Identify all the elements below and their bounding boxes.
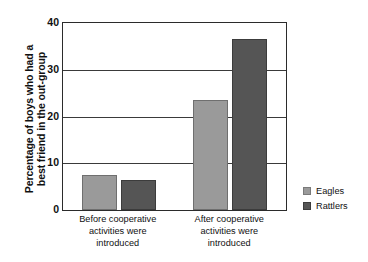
y-axis-tick-label: 40	[36, 16, 59, 28]
legend-label: Rattlers	[316, 201, 348, 211]
x-axis-group-label-line-1: Before cooperative	[58, 213, 178, 225]
y-axis-tick-label: 20	[36, 110, 59, 122]
bar-rattlers-group-2	[232, 39, 267, 210]
y-axis-tick-label: 30	[36, 63, 59, 75]
x-axis-group-label-line-3: introduced	[58, 237, 178, 249]
x-axis-group-label-line-1: After cooperative	[169, 213, 289, 225]
bar-rattlers-group-1	[121, 180, 156, 210]
x-axis-group-label: After cooperativeactivities wereintroduc…	[169, 213, 289, 249]
plot-area	[62, 22, 287, 211]
x-axis-group-label-line-3: introduced	[169, 237, 289, 249]
bar-eagles-group-2	[193, 100, 228, 210]
bars-layer	[63, 23, 286, 210]
y-axis-tick-label: 10	[36, 156, 59, 168]
y-axis-tick-label: 0	[36, 203, 59, 215]
legend-swatch-icon	[303, 187, 311, 195]
legend-swatch-icon	[303, 202, 311, 210]
y-axis-tick-labels: 010203040	[36, 0, 59, 262]
legend-item-rattlers: Rattlers	[303, 200, 365, 211]
bar-chart-figure: Percentage of boys who had a best friend…	[0, 0, 368, 262]
x-axis-group-label: Before cooperativeactivities wereintrodu…	[58, 213, 178, 249]
chart-legend: EaglesRattlers	[303, 185, 365, 215]
x-axis-group-label-line-2: activities were	[58, 225, 178, 237]
legend-item-eagles: Eagles	[303, 185, 365, 196]
x-axis-group-label-line-2: activities were	[169, 225, 289, 237]
bar-eagles-group-1	[82, 175, 117, 210]
x-axis-group-labels: Before cooperativeactivities wereintrodu…	[62, 213, 285, 259]
legend-label: Eagles	[316, 186, 344, 196]
